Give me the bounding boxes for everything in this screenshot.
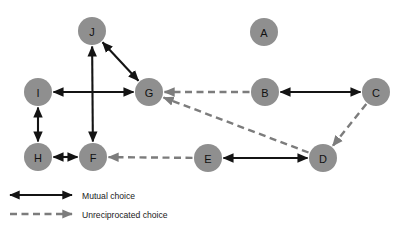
node-circle-b	[251, 78, 279, 106]
node-g[interactable]: G	[135, 78, 163, 106]
node-h[interactable]: H	[24, 143, 52, 171]
edge-c-d	[333, 104, 367, 146]
node-circle-h	[24, 143, 52, 171]
node-d[interactable]: D	[309, 144, 337, 172]
edge-j-g	[103, 42, 139, 80]
legend-mutual-label: Mutual choice	[82, 191, 135, 201]
legend: Mutual choice Unreciprocated choice	[10, 191, 168, 220]
node-circle-d	[309, 144, 337, 172]
node-layer: JAIGBCHFED	[24, 17, 390, 172]
node-i[interactable]: I	[24, 78, 52, 106]
node-circle-c	[362, 78, 390, 106]
node-circle-g	[135, 78, 163, 106]
legend-unreciprocated-label: Unreciprocated choice	[82, 210, 168, 220]
node-circle-e	[194, 144, 222, 172]
sociogram-canvas: JAIGBCHFED Mutual choice Unreciprocated …	[0, 0, 404, 231]
node-a[interactable]: A	[250, 18, 278, 46]
edge-j-f	[92, 47, 93, 142]
node-circle-f	[79, 143, 107, 171]
edge-d-g	[163, 98, 308, 153]
edge-layer	[38, 42, 366, 158]
node-f[interactable]: F	[79, 143, 107, 171]
node-circle-j	[78, 17, 106, 45]
node-circle-a	[250, 18, 278, 46]
node-j[interactable]: J	[78, 17, 106, 45]
node-c[interactable]: C	[362, 78, 390, 106]
node-e[interactable]: E	[194, 144, 222, 172]
node-b[interactable]: B	[251, 78, 279, 106]
node-circle-i	[24, 78, 52, 106]
edge-e-f	[109, 157, 193, 158]
sociogram-figure: JAIGBCHFED Mutual choice Unreciprocated …	[0, 0, 404, 231]
